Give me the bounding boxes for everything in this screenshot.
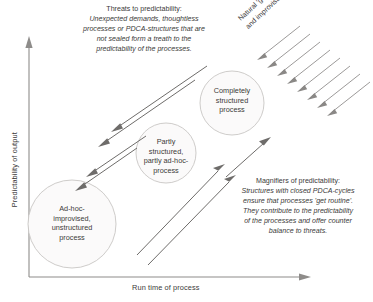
magnifier-arrow-3 — [226, 137, 271, 177]
y-axis-title: Predictability of output — [10, 115, 19, 225]
node-label-line: Partly — [128, 137, 204, 147]
gravity-arrow-5 — [297, 58, 340, 92]
gravity-arrow-8 — [327, 82, 370, 116]
x-axis-title: Run time of process — [132, 283, 200, 292]
annotation-threats-line: Unexpected demands, thoughtless — [44, 14, 244, 24]
node-label-partly-structured: Partly structured, partly ad-hoc- proces… — [128, 137, 204, 176]
node-label-line: process — [30, 233, 114, 243]
annotation-threats-line: not sealed form a treath to the — [44, 34, 244, 44]
node-label-line: Ad-hoc- — [30, 204, 114, 214]
node-label-line: partly ad-hoc- — [128, 156, 204, 166]
annotation-magnifiers: Magnifiers of predictability: Structures… — [222, 176, 373, 236]
node-label-line: structured, — [128, 147, 204, 157]
node-label-line: process — [192, 105, 272, 115]
node-label-ad-hoc: Ad-hoc- improvised, unstructured process — [30, 204, 114, 243]
annotation-magnifiers-line: ensure that processes 'get routine'. — [222, 196, 373, 206]
annotation-magnifiers-line: They contribute to the predictability — [222, 206, 373, 216]
process-predictability-diagram: Predictability of output Run time of pro… — [0, 0, 373, 302]
annotation-magnifiers-lead: Magnifiers of predictability: — [222, 176, 373, 186]
gravity-arrow-2 — [267, 34, 310, 68]
x-axis — [29, 273, 311, 280]
annotation-magnifiers-line: Structures with closed PDCA-cycles — [222, 186, 373, 196]
annotation-magnifiers-line: of the processes and offer counter — [222, 216, 373, 226]
annotation-magnifiers-line: balance to threats. — [222, 226, 373, 236]
node-label-line: Completely — [192, 86, 272, 96]
gravity-arrow-7 — [317, 74, 360, 108]
gravity-arrow-1 — [257, 26, 300, 60]
annotation-threats: Threats to predictability: Unexpected de… — [44, 4, 244, 54]
annotation-threats-lead: Threats to predictability: — [44, 4, 244, 14]
node-label-line: process — [128, 166, 204, 176]
node-label-line: structured — [192, 96, 272, 106]
annotation-threats-line: processes or PDCA-structures that are — [44, 24, 244, 34]
node-label-completely-structured: Completely structured process — [192, 86, 272, 115]
node-label-line: unstructured — [30, 223, 114, 233]
gravity-arrow-6 — [307, 66, 350, 100]
annotation-threats-line: predictability of the processes. — [44, 44, 244, 54]
gravity-arrow-4 — [287, 50, 330, 84]
gravity-arrow-3 — [277, 42, 320, 76]
node-label-line: improvised, — [30, 214, 114, 224]
